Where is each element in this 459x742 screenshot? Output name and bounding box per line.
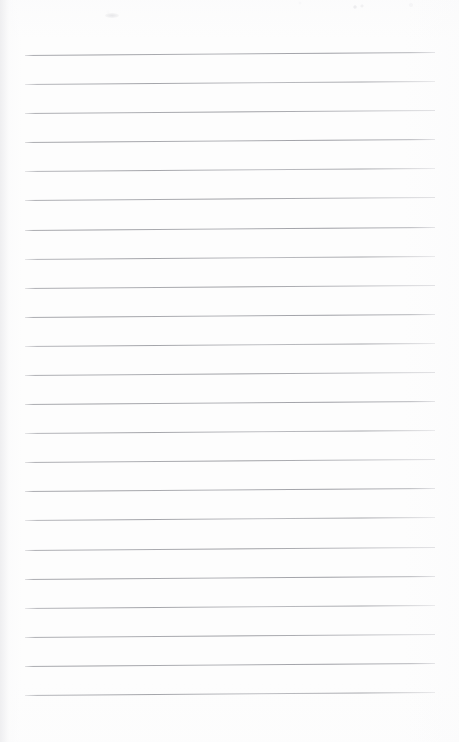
rule-line [25,634,435,638]
rule-line [25,692,435,696]
rule-line [25,547,435,551]
rule-line [25,576,435,580]
rule-line [25,314,435,318]
rule-line [25,459,435,463]
rule-line [25,81,435,85]
rule-line [25,168,435,172]
scan-speckle-artifact [0,0,459,30]
rule-line [25,605,435,609]
rule-line [25,197,435,201]
paper-surface [0,0,459,742]
rule-line [25,52,435,56]
rule-line [25,139,435,143]
rule-line [25,372,435,376]
rule-line [25,227,435,231]
rule-line [25,663,435,667]
rule-line [25,488,435,492]
rule-line [25,517,435,521]
scanned-page [0,0,459,742]
ruled-lines-group [0,0,459,742]
rule-line [25,343,435,347]
rule-line [25,401,435,405]
pencil-smudge-artifact [105,13,119,18]
rule-line [25,256,435,260]
rule-line [25,430,435,434]
rule-line [25,285,435,289]
rule-line [25,110,435,114]
